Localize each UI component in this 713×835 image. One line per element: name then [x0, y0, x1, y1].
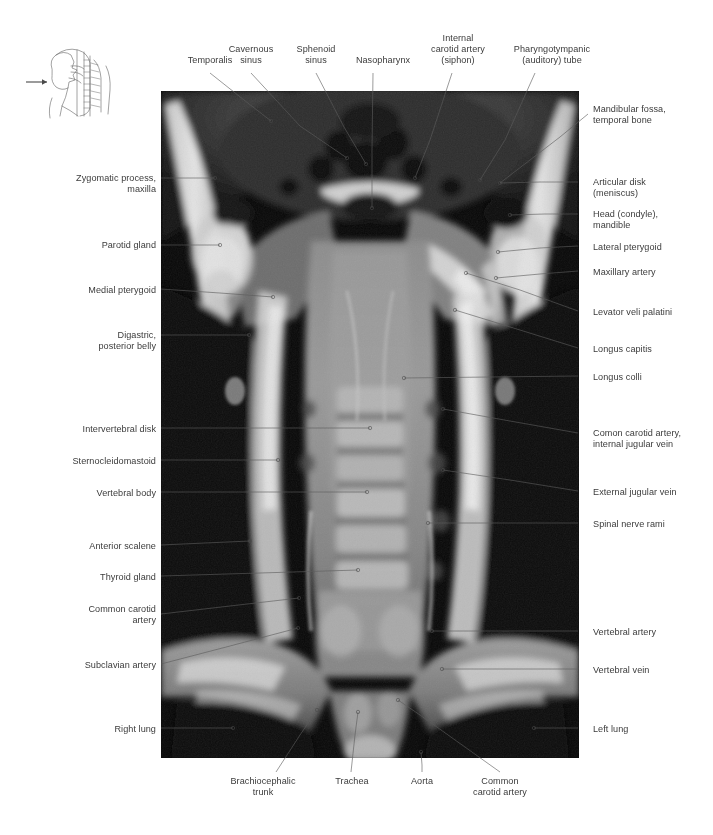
label-lateral-pterygoid: Lateral pterygoid — [593, 242, 708, 253]
label-comon-carotid-artery-internal-jugular-vein: Comon carotid artery, internal jugular v… — [593, 428, 711, 450]
label-mandibular-fossa-temporal-bone: Mandibular fossa, temporal bone — [593, 104, 708, 126]
mri-coronal-image — [161, 91, 579, 758]
anatomy-figure: TemporalisCavernous sinusSphenoid sinusN… — [0, 0, 713, 835]
label-external-jugular-vein: External jugular vein — [593, 487, 711, 498]
label-brachiocephalic-trunk: Brachiocephalic trunk — [215, 776, 311, 798]
label-parotid-gland: Parotid gland — [35, 240, 156, 251]
label-articular-disk-meniscus: Articular disk (meniscus) — [593, 177, 708, 199]
label-sternocleidomastoid: Sternocleidomastoid — [35, 456, 156, 467]
label-vertebral-vein: Vertebral vein — [593, 665, 711, 676]
label-right-lung: Right lung — [35, 724, 156, 735]
label-pharyngotympanic-auditory-tube: Pharyngotympanic (auditory) tube — [492, 44, 612, 66]
label-subclavian-artery: Subclavian artery — [35, 660, 156, 671]
orientation-key-diagram — [22, 36, 122, 128]
label-aorta: Aorta — [394, 776, 450, 787]
label-spinal-nerve-rami: Spinal nerve rami — [593, 519, 711, 530]
label-zygomatic-process-maxilla: Zygomatic process, maxilla — [35, 173, 156, 195]
label-trachea: Trachea — [320, 776, 384, 787]
direction-arrow-icon — [26, 79, 47, 84]
label-longus-colli: Longus colli — [593, 372, 708, 383]
label-vertebral-artery: Vertebral artery — [593, 627, 711, 638]
label-longus-capitis: Longus capitis — [593, 344, 708, 355]
label-vertebral-body: Vertebral body — [35, 488, 156, 499]
label-head-condyle-mandible: Head (condyle), mandible — [593, 209, 708, 231]
label-intervertebral-disk: Intervertebral disk — [35, 424, 156, 435]
label-common-carotid-artery: Common carotid artery — [35, 604, 156, 626]
label-thyroid-gland: Thyroid gland — [35, 572, 156, 583]
label-digastric-posterior-belly: Digastric, posterior belly — [35, 330, 156, 352]
label-common-carotid-artery: Common carotid artery — [452, 776, 548, 798]
label-levator-veli-palatini: Levator veli palatini — [593, 307, 708, 318]
label-maxillary-artery: Maxillary artery — [593, 267, 708, 278]
label-anterior-scalene: Anterior scalene — [35, 541, 156, 552]
label-left-lung: Left lung — [593, 724, 711, 735]
label-medial-pterygoid: Medial pterygoid — [35, 285, 156, 296]
sagittal-head-neck-outline — [49, 49, 110, 118]
